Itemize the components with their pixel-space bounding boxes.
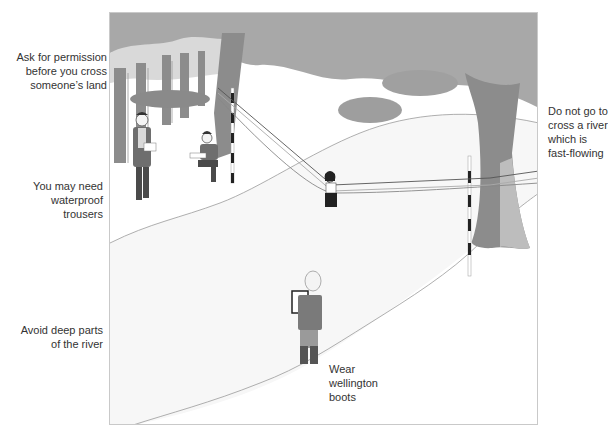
- annotation-permission: Ask for permission before you cross some…: [4, 50, 107, 92]
- annotation-line: waterproof: [4, 193, 103, 207]
- shrub: [338, 97, 402, 123]
- annotation-deep-parts: Avoid deep parts of the river: [4, 323, 103, 351]
- annotation-line: cross a river: [548, 118, 608, 132]
- annotation-line: trousers: [4, 207, 103, 221]
- annotation-line: someone’s land: [4, 78, 107, 92]
- shrub: [382, 70, 458, 96]
- annotation-line: You may need: [4, 179, 103, 193]
- annotation-line: fast-flowing: [548, 146, 608, 160]
- annotation-line: which is: [548, 132, 608, 146]
- annotation-line: before you cross: [4, 64, 107, 78]
- annotation-line: Ask for permission: [4, 50, 107, 64]
- annotation-line: wellington: [329, 376, 389, 390]
- person-in-river-holding-tape: [325, 171, 337, 207]
- annotation-trousers: You may need waterproof trousers: [4, 179, 103, 221]
- annotation-line: boots: [329, 390, 389, 404]
- annotation-line: Wear: [329, 362, 389, 376]
- shrub: [130, 90, 210, 108]
- river-scene-illustration: Wear wellington boots: [109, 12, 538, 425]
- annotation-fast-flowing: Do not go to cross a river which is fast…: [548, 104, 608, 160]
- person-crouching-with-clipboard: [190, 131, 218, 182]
- annotation-line: Avoid deep parts: [4, 323, 103, 337]
- ranging-pole-right: [468, 156, 471, 276]
- annotation-line: of the river: [4, 337, 103, 351]
- ranging-pole-left: [231, 88, 234, 183]
- annotation-line: Do not go to: [548, 104, 608, 118]
- scene-drawing: [110, 13, 538, 425]
- annotation-wellingtons: Wear wellington boots: [329, 362, 389, 404]
